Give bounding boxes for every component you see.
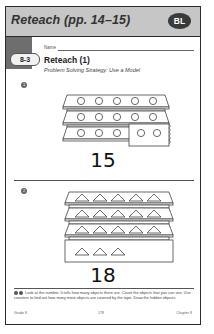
section-divider [14, 180, 194, 181]
name-line [58, 50, 194, 51]
footer-grade: Grade K [14, 311, 27, 315]
shelves-circles-figure [61, 93, 171, 149]
worksheet-subtitle: Problem Solving Strategy: Use a Model [44, 67, 140, 73]
footer-page-number: 178 [98, 311, 104, 315]
worksheet-page: Reteach (pp. 14–15) BL 8-3 Name Reteach … [5, 6, 201, 325]
name-label: Name [44, 45, 56, 50]
problem-1-marker: 1 [21, 82, 27, 88]
instructions-text: Look at the number. It tells how many ob… [14, 290, 191, 300]
shelves-triangles-figure [63, 190, 175, 266]
instructions-divider [14, 288, 194, 289]
tape [129, 124, 169, 146]
lesson-number: 8-3 [10, 53, 40, 66]
footer-chapter: Chapter 8 [176, 311, 192, 315]
problem-1-number: 15 [6, 148, 200, 172]
teacher-instructions: Look at the number. It tells how many ob… [14, 291, 196, 301]
problem-2-marker: 2 [21, 188, 27, 194]
worksheet-title: Reteach (1) [44, 55, 90, 65]
problem-2-number: 18 [6, 263, 200, 287]
header-title: Reteach (pp. 14–15) [11, 13, 130, 27]
header-band: Reteach (pp. 14–15) BL [6, 7, 200, 37]
level-badge: BL [168, 13, 191, 29]
